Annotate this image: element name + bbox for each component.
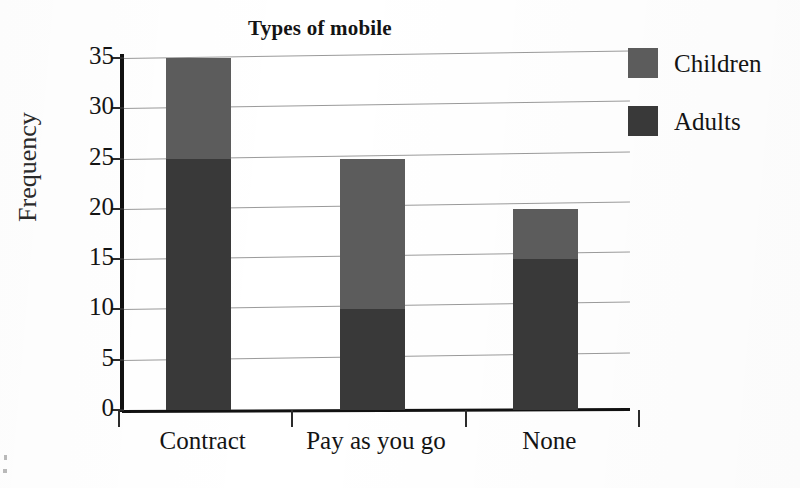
legend-item[interactable]: Children (628, 48, 798, 78)
y-tick-label: 15 (89, 244, 114, 269)
stacked-bar-chart-figure: Types of mobile Frequency 35302520151050… (0, 0, 800, 488)
x-axis-layer: ContractPay as you goNone (122, 410, 630, 470)
bar-segment-children[interactable] (340, 159, 405, 310)
bar-segment-children[interactable] (513, 209, 578, 259)
bar-segment-adults[interactable] (166, 159, 231, 410)
bar-group[interactable] (513, 58, 578, 410)
legend-label: Children (674, 51, 762, 76)
x-tick-mark (291, 410, 293, 427)
x-tick-mark (465, 410, 467, 427)
chart-title: Types of mobile (0, 16, 640, 41)
y-tick-label: 30 (89, 93, 114, 118)
y-tick-label: 35 (89, 43, 114, 68)
bar-segment-adults[interactable] (340, 309, 405, 410)
chart-legend: ChildrenAdults (628, 48, 798, 164)
y-tick-label: 25 (89, 144, 114, 169)
y-axis-title: Frequency (13, 77, 43, 257)
legend-label: Adults (674, 109, 741, 134)
scan-speckle (4, 455, 7, 460)
x-category-label: Pay as you go (291, 427, 460, 455)
legend-item[interactable]: Adults (628, 106, 798, 136)
x-tick-mark (638, 410, 640, 427)
bar-group[interactable] (340, 58, 405, 410)
x-category-label: Contract (118, 427, 287, 455)
y-tick-label: 0 (102, 395, 115, 420)
bar-group[interactable] (166, 58, 231, 410)
scan-speckle (3, 469, 7, 473)
legend-swatch (628, 48, 658, 78)
plot-area: 35302520151050 (122, 58, 630, 410)
y-tick-label: 10 (89, 294, 114, 319)
y-tick-label: 5 (102, 345, 115, 370)
x-category-label: None (465, 427, 634, 455)
bar-segment-adults[interactable] (513, 259, 578, 410)
legend-swatch (628, 106, 658, 136)
y-tick-label: 20 (89, 194, 114, 219)
x-tick-mark (118, 410, 120, 427)
bar-segment-children[interactable] (166, 58, 231, 159)
